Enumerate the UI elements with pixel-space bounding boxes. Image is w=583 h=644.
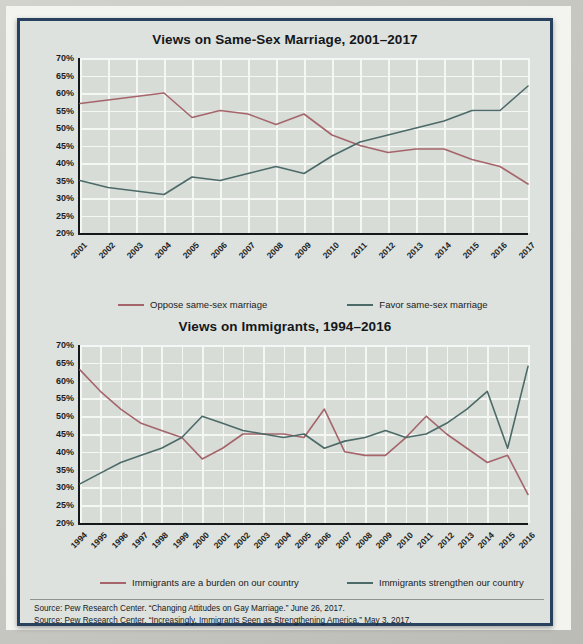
gridline-vertical — [528, 58, 530, 233]
y-tick-label: 45% — [56, 429, 74, 439]
series-line — [80, 86, 528, 195]
y-tick-label: 65% — [56, 358, 74, 368]
legend-swatch-burden — [100, 582, 126, 584]
legend-swatch-oppose — [118, 304, 144, 306]
x-tick-label: 2014 — [426, 240, 453, 267]
y-tick-label: 55% — [56, 393, 74, 403]
y-tick-label: 35% — [56, 176, 74, 186]
legend-label-strengthen: Immigrants strengthen our country — [379, 577, 524, 588]
legend-swatch-favor — [347, 304, 373, 306]
x-tick-label: 2016 — [482, 240, 509, 267]
y-axis-labels-chart1: 20%25%30%35%40%45%50%55%60%65%70% — [36, 58, 74, 233]
source-notes: Source: Pew Research Center. “Changing A… — [34, 603, 412, 627]
x-axis-labels-chart1: 2001200220032004200520062007200820092010… — [78, 238, 526, 278]
legend-label-favor: Favor same-sex marriage — [379, 299, 487, 310]
plot-area-immigrants: 20%25%30%35%40%45%50%55%60%65%70% 199419… — [20, 311, 550, 591]
series-lines-chart2 — [80, 345, 528, 523]
x-tick-label: 2003 — [118, 240, 145, 267]
plot-area-same-sex-marriage: 20%25%30%35%40%45%50%55%60%65%70% 200120… — [20, 21, 550, 311]
legend-item-oppose: Oppose same-sex marriage — [80, 299, 347, 310]
x-tick-label: 2009 — [286, 240, 313, 267]
y-tick-label: 30% — [56, 482, 74, 492]
y-tick-label: 20% — [56, 518, 74, 528]
x-tick-label: 2001 — [62, 240, 89, 267]
legend-item-strengthen: Immigrants strengthen our country — [347, 577, 550, 588]
legend-chart2: Immigrants are a burden on our country I… — [70, 577, 550, 588]
chart-panel-same-sex-marriage: Views on Same-Sex Marriage, 2001–2017 20… — [20, 21, 550, 311]
series-line — [80, 93, 528, 184]
legend-label-oppose: Oppose same-sex marriage — [150, 299, 267, 310]
x-axis-labels-chart2: 1994199519961997199819992000200120022003… — [78, 528, 526, 568]
legend-chart1: Oppose same-sex marriage Favor same-sex … — [80, 299, 540, 310]
plot-grid-chart1 — [78, 58, 528, 235]
source-line-2: Source: Pew Research Center. “Increasing… — [34, 615, 412, 627]
y-tick-label: 25% — [56, 500, 74, 510]
y-tick-label: 20% — [56, 228, 74, 238]
legend-item-burden: Immigrants are a burden on our country — [70, 577, 347, 588]
figure-inner: Views on Same-Sex Marriage, 2001–2017 20… — [20, 21, 550, 623]
source-line-1: Source: Pew Research Center. “Changing A… — [34, 603, 412, 615]
figure-frame: Views on Same-Sex Marriage, 2001–2017 20… — [17, 18, 553, 626]
legend-swatch-strengthen — [347, 582, 373, 584]
y-tick-label: 35% — [56, 465, 74, 475]
gridline-vertical — [528, 345, 530, 523]
x-tick-label: 2015 — [454, 240, 481, 267]
chart-panel-immigrants: Views on Immigrants, 1994–2016 20%25%30%… — [20, 311, 550, 591]
legend-item-favor: Favor same-sex marriage — [347, 299, 540, 310]
y-tick-label: 55% — [56, 106, 74, 116]
x-tick-label: 2007 — [230, 240, 257, 267]
y-tick-label: 25% — [56, 211, 74, 221]
y-tick-label: 30% — [56, 193, 74, 203]
y-tick-label: 45% — [56, 141, 74, 151]
plot-grid-chart2 — [78, 345, 528, 525]
x-tick-label: 2004 — [146, 240, 173, 267]
x-tick-label: 2006 — [202, 240, 229, 267]
page-background: Views on Same-Sex Marriage, 2001–2017 20… — [0, 0, 583, 644]
y-tick-label: 50% — [56, 123, 74, 133]
x-tick-label: 2005 — [174, 240, 201, 267]
y-tick-label: 40% — [56, 447, 74, 457]
y-tick-label: 60% — [56, 376, 74, 386]
y-tick-label: 70% — [56, 53, 74, 63]
x-tick-label: 2017 — [510, 240, 537, 267]
y-tick-label: 50% — [56, 411, 74, 421]
series-line — [80, 370, 528, 495]
x-tick-label: 2012 — [370, 240, 397, 267]
y-tick-label: 65% — [56, 71, 74, 81]
legend-label-burden: Immigrants are a burden on our country — [132, 577, 299, 588]
x-tick-label: 2010 — [314, 240, 341, 267]
series-lines-chart1 — [80, 58, 528, 233]
y-tick-label: 60% — [56, 88, 74, 98]
y-axis-labels-chart2: 20%25%30%35%40%45%50%55%60%65%70% — [36, 345, 74, 523]
source-divider — [30, 599, 544, 600]
x-tick-label: 2013 — [398, 240, 425, 267]
x-tick-label: 2011 — [342, 240, 369, 267]
y-tick-label: 70% — [56, 340, 74, 350]
x-tick-label: 2002 — [90, 240, 117, 267]
x-tick-label: 2008 — [258, 240, 285, 267]
y-tick-label: 40% — [56, 158, 74, 168]
